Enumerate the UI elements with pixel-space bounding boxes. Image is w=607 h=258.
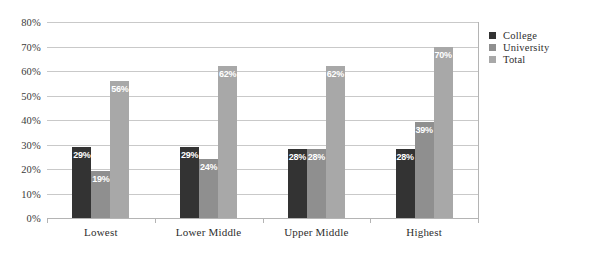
- legend-swatch-icon: [489, 56, 496, 63]
- bar-value-label: 28%: [289, 152, 306, 162]
- y-axis-tick-label: 20%: [1, 164, 41, 175]
- legend-item-university[interactable]: University: [489, 42, 549, 53]
- bar-total[interactable]: 62%: [218, 66, 237, 218]
- x-axis-tick: [155, 218, 156, 223]
- bar-value-label: 19%: [92, 174, 109, 184]
- bar-groups: 29%19%56%29%24%62%28%28%62%28%39%70%: [47, 22, 478, 218]
- y-axis-tick-label: 80%: [1, 17, 41, 28]
- legend-item-label: University: [503, 42, 549, 53]
- bar-value-label: 28%: [308, 152, 325, 162]
- bar-college[interactable]: 28%: [288, 149, 307, 218]
- bar-value-label: 29%: [181, 150, 198, 160]
- legend-swatch-icon: [489, 44, 496, 51]
- y-axis-tick-label: 50%: [1, 90, 41, 101]
- bar-group-bars: 29%19%56%: [47, 22, 155, 218]
- bar-group: 28%39%70%: [370, 22, 478, 218]
- legend-item-label: College: [503, 30, 537, 41]
- plot-area: 29%19%56%29%24%62%28%28%62%28%39%70%: [47, 22, 478, 218]
- legend-divider: [478, 22, 479, 218]
- legend-item-total[interactable]: Total: [489, 54, 549, 65]
- bar-total[interactable]: 56%: [110, 81, 129, 218]
- y-axis-tick-label: 60%: [1, 66, 41, 77]
- legend-item-college[interactable]: College: [489, 30, 549, 41]
- legend-item-label: Total: [503, 54, 525, 65]
- x-axis-category-label: Highest: [370, 226, 478, 238]
- grouped-bar-chart: 80%70%60%50%40%30%20%10%0% 29%19%56%29%2…: [0, 0, 607, 258]
- bar-group-bars: 28%28%62%: [263, 22, 371, 218]
- bar-value-label: 70%: [434, 50, 451, 60]
- y-axis-tick-label: 10%: [1, 188, 41, 199]
- bar-university[interactable]: 19%: [91, 171, 110, 218]
- bar-value-label: 62%: [219, 69, 236, 79]
- bar-group: 28%28%62%: [263, 22, 371, 218]
- y-axis-tick-label: 30%: [1, 139, 41, 150]
- bar-value-label: 39%: [415, 125, 432, 135]
- x-axis-tick: [370, 218, 371, 223]
- x-axis-category-label: Lowest: [47, 226, 155, 238]
- bar-value-label: 29%: [73, 150, 90, 160]
- bar-group: 29%19%56%: [47, 22, 155, 218]
- bar-university[interactable]: 39%: [415, 122, 434, 218]
- bar-group-bars: 28%39%70%: [370, 22, 478, 218]
- bar-group: 29%24%62%: [155, 22, 263, 218]
- bar-college[interactable]: 29%: [180, 147, 199, 218]
- bar-university[interactable]: 28%: [307, 149, 326, 218]
- bar-total[interactable]: 70%: [434, 47, 453, 219]
- x-axis-labels: LowestLower MiddleUpper MiddleHighest: [47, 226, 478, 238]
- x-axis-category-label: Upper Middle: [263, 226, 371, 238]
- x-axis-tick: [478, 218, 479, 223]
- y-axis-tick-label: 70%: [1, 41, 41, 52]
- bar-college[interactable]: 28%: [396, 149, 415, 218]
- bar-value-label: 24%: [200, 162, 217, 172]
- y-axis-tick-label: 40%: [1, 115, 41, 126]
- bar-group-bars: 29%24%62%: [155, 22, 263, 218]
- legend-swatch-icon: [489, 32, 496, 39]
- bar-total[interactable]: 62%: [326, 66, 345, 218]
- x-axis-tick: [47, 218, 48, 223]
- bar-value-label: 56%: [111, 84, 128, 94]
- bar-value-label: 28%: [396, 152, 413, 162]
- x-axis-tick: [263, 218, 264, 223]
- y-axis-tick-label: 0%: [1, 213, 41, 224]
- bar-university[interactable]: 24%: [199, 159, 218, 218]
- x-axis-category-label: Lower Middle: [155, 226, 263, 238]
- bar-value-label: 62%: [327, 69, 344, 79]
- bar-college[interactable]: 29%: [72, 147, 91, 218]
- chart-legend: College University Total: [489, 30, 549, 66]
